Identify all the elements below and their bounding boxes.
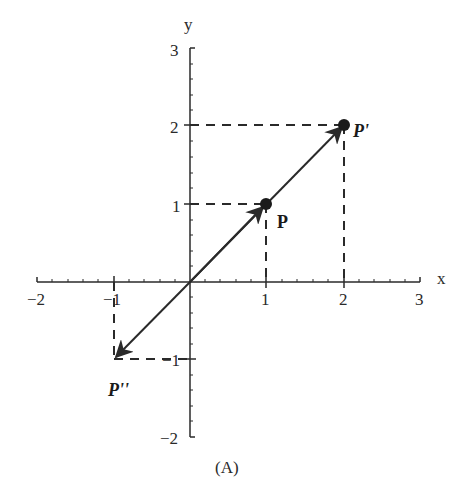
vectors — [116, 127, 342, 357]
svg-text:−1: −1 — [162, 351, 180, 370]
svg-text:3: 3 — [415, 290, 424, 309]
vector-to-p — [190, 207, 263, 282]
vector-to-p-double-prime — [116, 282, 190, 357]
point-p-prime — [338, 119, 350, 131]
svg-text:2: 2 — [339, 290, 348, 309]
svg-text:−2: −2 — [27, 290, 45, 309]
svg-text:2: 2 — [170, 118, 179, 137]
label-p: P — [277, 212, 288, 232]
point-p — [260, 198, 272, 210]
figure-caption: (A) — [215, 458, 239, 477]
coordinate-diagram: −2 −1 1 2 3 3 2 1 −1 −2 x y P P' P'' (A) — [0, 0, 460, 498]
x-tick-labels: −2 −1 1 2 3 — [27, 290, 424, 309]
label-p-prime: P' — [352, 121, 369, 141]
y-axis-label: y — [184, 15, 193, 34]
svg-text:3: 3 — [170, 41, 179, 60]
y-axis — [184, 48, 196, 437]
x-axis — [37, 276, 420, 288]
y-tick-labels: 3 2 1 −1 −2 — [160, 41, 181, 448]
svg-text:1: 1 — [172, 197, 181, 216]
svg-text:1: 1 — [261, 290, 270, 309]
svg-text:−2: −2 — [160, 429, 178, 448]
svg-text:−1: −1 — [103, 290, 121, 309]
label-p-double-prime: P'' — [107, 380, 129, 400]
x-axis-label: x — [437, 269, 446, 288]
